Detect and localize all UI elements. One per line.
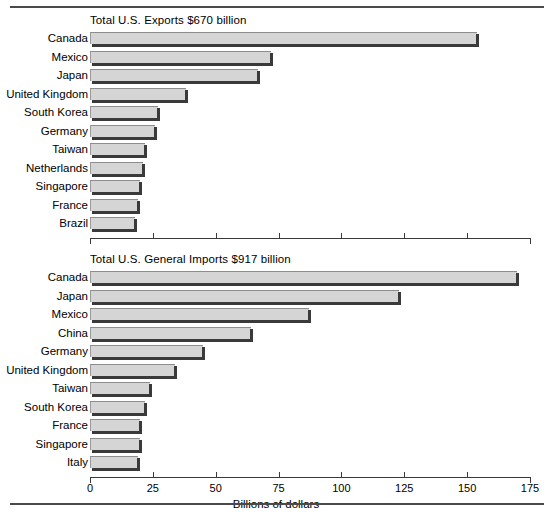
- bar-fill: [90, 88, 186, 100]
- imports-title: Total U.S. General Imports $917 billion: [90, 253, 291, 265]
- imports-category-label: Japan: [0, 290, 88, 303]
- bar-fill: [90, 419, 140, 431]
- imports-category-label: United Kingdom: [0, 364, 88, 377]
- imports-category-label: Mexico: [0, 308, 88, 321]
- imports-bar: [90, 290, 402, 305]
- bar-shadow-right: [257, 71, 260, 84]
- bar-row: United Kingdom: [0, 87, 552, 106]
- bar-shadow-bottom: [92, 174, 145, 177]
- imports-axis-tick: [279, 472, 280, 478]
- bar-shadow-bottom: [92, 211, 140, 214]
- exports-category-label: Canada: [0, 32, 88, 45]
- bar-shadow-bottom: [92, 339, 253, 342]
- bar-fill: [90, 106, 158, 118]
- imports-bar: [90, 308, 312, 323]
- bar-row: Germany: [0, 124, 552, 143]
- bar-row: South Korea: [0, 105, 552, 124]
- exports-plot-area: CanadaMexicoJapanUnited KingdomSouth Kor…: [0, 31, 552, 235]
- imports-axis-tick: [153, 472, 154, 478]
- bar-shadow-right: [139, 182, 142, 195]
- exports-category-label: France: [0, 199, 88, 212]
- imports-axis-tick: [216, 472, 217, 478]
- bar-row: Netherlands: [0, 161, 552, 180]
- imports-category-label: France: [0, 419, 88, 432]
- imports-axis-tick-label: 0: [87, 482, 93, 494]
- bar-shadow-bottom: [92, 357, 205, 360]
- exports-category-label: Singapore: [0, 180, 88, 193]
- bar-row: Japan: [0, 68, 552, 87]
- bar-fill: [90, 382, 150, 394]
- bar-shadow-right: [250, 329, 253, 342]
- bar-row: China: [0, 326, 552, 345]
- bar-shadow-bottom: [92, 450, 142, 453]
- bar-fill: [90, 143, 145, 155]
- imports-axis-tick: [341, 472, 342, 478]
- bar-shadow-right: [157, 108, 160, 121]
- bar-shadow-right: [398, 292, 401, 305]
- bar-fill: [90, 125, 155, 137]
- exports-axis-tick: [279, 233, 280, 239]
- exports-bar: [90, 69, 261, 84]
- exports-bar: [90, 125, 158, 140]
- bar-fill: [90, 345, 203, 357]
- bar-row: France: [0, 198, 552, 217]
- top-divider-rule: [10, 6, 544, 8]
- bar-shadow-right: [185, 90, 188, 103]
- bar-row: Germany: [0, 344, 552, 363]
- bar-row: South Korea: [0, 400, 552, 419]
- bar-shadow-right: [139, 421, 142, 434]
- bar-shadow-right: [174, 366, 177, 379]
- bar-fill: [90, 32, 477, 44]
- bar-shadow-bottom: [92, 283, 519, 286]
- exports-category-label: Taiwan: [0, 143, 88, 156]
- imports-bar: [90, 419, 143, 434]
- bar-shadow-right: [139, 440, 142, 453]
- exports-category-label: Brazil: [0, 217, 88, 230]
- exports-bar: [90, 162, 146, 177]
- bar-shadow-bottom: [92, 302, 401, 305]
- bar-row: France: [0, 418, 552, 437]
- bar-row: Taiwan: [0, 381, 552, 400]
- imports-axis-line: [90, 477, 530, 478]
- imports-bar: [90, 271, 520, 286]
- bar-row: Singapore: [0, 437, 552, 456]
- bar-shadow-bottom: [92, 118, 160, 121]
- bar-fill: [90, 271, 517, 283]
- bar-shadow-right: [144, 145, 147, 158]
- bar-row: United Kingdom: [0, 363, 552, 382]
- imports-axis-tick: [467, 472, 468, 478]
- imports-bar: [90, 438, 143, 453]
- imports-axis-tick-label: 175: [521, 482, 539, 494]
- imports-x-axis: Billions of dollars 0255075100125150175: [0, 477, 552, 501]
- bar-shadow-right: [270, 53, 273, 66]
- exports-panel: Total U.S. Exports $670 billion CanadaMe…: [0, 14, 552, 239]
- exports-category-label: South Korea: [0, 106, 88, 119]
- imports-axis-tick-label: 25: [147, 482, 159, 494]
- bar-fill: [90, 364, 175, 376]
- bar-row: Japan: [0, 289, 552, 308]
- imports-axis-tick-label: 50: [210, 482, 222, 494]
- imports-axis-tick-label: 150: [458, 482, 476, 494]
- bar-shadow-right: [308, 310, 311, 323]
- bar-row: Canada: [0, 270, 552, 289]
- imports-panel: Total U.S. General Imports $917 billion …: [0, 253, 552, 493]
- bar-shadow-bottom: [92, 44, 479, 47]
- bar-fill: [90, 180, 140, 192]
- imports-bar: [90, 401, 148, 416]
- exports-axis-tick: [467, 233, 468, 239]
- bar-shadow-bottom: [92, 137, 157, 140]
- bar-shadow-bottom: [92, 320, 311, 323]
- bar-row: Canada: [0, 31, 552, 50]
- bar-shadow-right: [149, 384, 152, 397]
- exports-axis-tick: [341, 233, 342, 239]
- bar-shadow-bottom: [92, 100, 188, 103]
- bar-fill: [90, 401, 145, 413]
- exports-category-label: Japan: [0, 69, 88, 82]
- imports-plot-area: CanadaJapanMexicoChinaGermanyUnited King…: [0, 270, 552, 474]
- bar-fill: [90, 308, 309, 320]
- bar-shadow-right: [476, 34, 479, 47]
- figure-root: Total U.S. Exports $670 billion CanadaMe…: [0, 0, 552, 516]
- bar-row: Singapore: [0, 179, 552, 198]
- exports-bar: [90, 51, 274, 66]
- bar-row: Italy: [0, 455, 552, 474]
